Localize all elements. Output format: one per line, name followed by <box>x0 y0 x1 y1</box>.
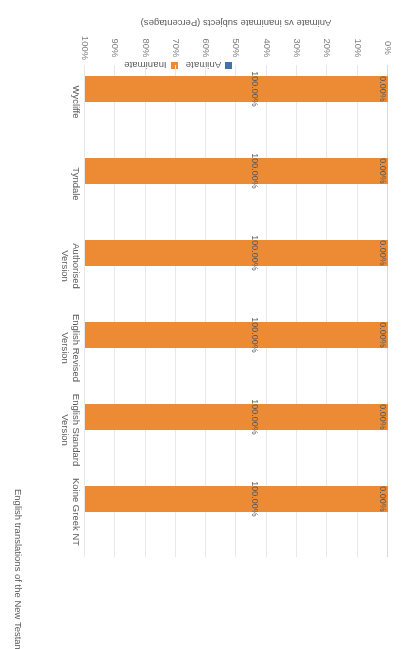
gridline-80 <box>145 65 146 557</box>
bar-inanimate[interactable] <box>85 158 388 184</box>
data-label-animate: 0.00% <box>369 152 397 190</box>
gridline-50 <box>236 65 237 557</box>
data-label-animate: 0.00% <box>369 480 397 518</box>
bar-row: 100.00% 0.00% <box>84 158 388 184</box>
bar-inanimate[interactable] <box>85 240 388 266</box>
data-label-inanimate: 100.00% <box>241 477 269 521</box>
bar-row: 100.00% 0.00% <box>84 76 388 102</box>
tick-label-20: 20% <box>314 31 340 65</box>
data-label-inanimate: 100.00% <box>241 313 269 357</box>
bar-inanimate[interactable] <box>85 76 388 102</box>
bar-row: 100.00% 0.00% <box>84 486 388 512</box>
data-label-inanimate: 100.00% <box>241 67 269 111</box>
tick-label-0: 0% <box>375 31 401 65</box>
category-axis-title: English translations of the New Testamen… <box>13 489 24 649</box>
tick-label-70: 70% <box>163 31 189 65</box>
tick-label-30: 30% <box>284 31 310 65</box>
tick-label-10: 10% <box>345 31 371 65</box>
bar-chart-figure: Inanimate Animate 100.00% 0.00% 100.00% … <box>0 0 412 649</box>
category-label-tyndale: Tyndale <box>71 145 82 223</box>
tick-label-40: 40% <box>254 31 280 65</box>
gridline-70 <box>175 65 176 557</box>
gridline-60 <box>205 65 206 557</box>
data-label-inanimate: 100.00% <box>241 149 269 193</box>
tick-label-50: 50% <box>224 31 250 65</box>
gridline-30 <box>296 65 297 557</box>
gridline-100 <box>84 65 85 557</box>
plot-area: 100.00% 0.00% 100.00% 0.00% 100.00% 0.00… <box>84 65 388 557</box>
bar-row: 100.00% 0.00% <box>84 404 388 430</box>
tick-label-90: 90% <box>102 31 128 65</box>
data-label-animate: 0.00% <box>369 398 397 436</box>
data-label-animate: 0.00% <box>369 316 397 354</box>
tick-label-60: 60% <box>193 31 219 65</box>
data-label-inanimate: 100.00% <box>241 395 269 439</box>
tick-label-100: 100% <box>72 31 98 65</box>
bar-row: 100.00% 0.00% <box>84 240 388 266</box>
category-label-authorised-version: Authorised Version <box>60 227 82 305</box>
data-label-animate: 0.00% <box>369 70 397 108</box>
data-label-animate: 0.00% <box>369 234 397 272</box>
gridline-10 <box>357 65 358 557</box>
category-label-english-standard-version: English Standard Version <box>60 391 82 469</box>
gridline-20 <box>326 65 327 557</box>
bar-row: 100.00% 0.00% <box>84 322 388 348</box>
bar-inanimate[interactable] <box>85 322 388 348</box>
data-label-inanimate: 100.00% <box>241 231 269 275</box>
bar-inanimate[interactable] <box>85 404 388 430</box>
tick-label-80: 80% <box>133 31 159 65</box>
gridline-90 <box>114 65 115 557</box>
category-label-koine-greek-nt: Koine Greek NT <box>71 473 82 551</box>
bar-inanimate[interactable] <box>85 486 388 512</box>
value-axis-title: Animate vs inanimate subjects (Percentag… <box>80 18 392 29</box>
category-label-wycliffe: Wycliffe <box>71 63 82 141</box>
category-label-english-revised-version: English Revised Version <box>60 309 82 387</box>
